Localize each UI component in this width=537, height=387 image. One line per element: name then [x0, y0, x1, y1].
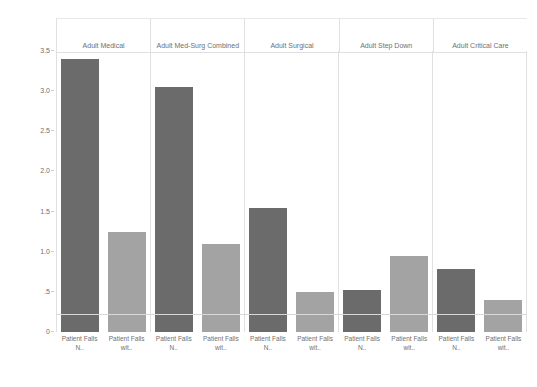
x-axis-baseline [56, 314, 527, 315]
bar[interactable] [437, 269, 475, 332]
y-tick-label: 2.5 [40, 127, 50, 135]
x-label-group-5: Patient Falls N..Patient Falls wit.. [433, 334, 527, 364]
x-tick-label: Patient Falls N.. [58, 334, 102, 364]
bar[interactable] [202, 244, 240, 332]
x-label-group-1: Patient Falls N..Patient Falls wit.. [56, 334, 150, 364]
y-axis-title: Rate of Patient Falls (per 1,000 patient… [6, 0, 22, 50]
bar[interactable] [390, 256, 428, 332]
panel-5 [432, 51, 527, 332]
y-tick-mark [51, 170, 54, 171]
y-tick-mark [51, 291, 54, 292]
x-tick-label: Patient Falls wit.. [293, 334, 337, 364]
panel-header-label: Adult Medical [83, 41, 125, 50]
bar[interactable] [108, 232, 146, 332]
x-label-group-2: Patient Falls N..Patient Falls wit.. [150, 334, 244, 364]
panel-header-4: Adult Step Down [339, 19, 433, 52]
x-axis-labels: Patient Falls N..Patient Falls wit..Pati… [56, 334, 527, 364]
panel-header-5: Adult Critical Care [433, 19, 527, 52]
x-tick-label: Patient Falls N.. [434, 334, 478, 364]
panel-header-1: Adult Medical [56, 19, 150, 52]
panel-header-label: Adult Med-Surg Combined [157, 41, 240, 50]
y-tick-label: 2.0 [40, 167, 50, 175]
y-tick-mark [51, 50, 54, 51]
bar-chart: Rate of Patient Falls (per 1,000 patient… [0, 0, 537, 387]
y-tick-label: 1.0 [40, 248, 50, 256]
panel-header-label: Adult Critical Care [452, 41, 508, 50]
y-tick-mark [51, 90, 54, 91]
x-tick-label: Patient Falls wit.. [387, 334, 431, 364]
y-tick-label: .5 [44, 288, 50, 296]
panel-2 [150, 51, 244, 332]
panel-header-3: Adult Surgical [244, 19, 338, 52]
panel-3 [244, 51, 338, 332]
x-tick-label: Patient Falls N.. [152, 334, 196, 364]
x-label-group-3: Patient Falls N..Patient Falls wit.. [244, 334, 338, 364]
plot-area: Adult MedicalAdult Med-Surg CombinedAdul… [56, 18, 527, 332]
panel-header-2: Adult Med-Surg Combined [150, 19, 244, 52]
y-tick-label: 1.5 [40, 208, 50, 216]
bar[interactable] [343, 290, 381, 332]
y-tick-mark [51, 130, 54, 131]
panel-header-label: Adult Surgical [270, 41, 313, 50]
panel-columns [56, 51, 527, 332]
y-tick-mark [51, 331, 54, 332]
y-tick-label: 3.0 [40, 87, 50, 95]
bar[interactable] [484, 300, 522, 332]
panel-1 [56, 51, 150, 332]
y-tick-mark [51, 211, 54, 212]
x-tick-label: Patient Falls wit.. [481, 334, 525, 364]
bar[interactable] [296, 292, 334, 332]
y-tick-label: 3.5 [40, 47, 50, 55]
panel-headers: Adult MedicalAdult Med-Surg CombinedAdul… [56, 18, 527, 53]
x-tick-label: Patient Falls wit.. [105, 334, 149, 364]
panel-header-label: Adult Step Down [360, 41, 412, 50]
y-tick-label: 0 [46, 328, 50, 336]
bar[interactable] [155, 87, 193, 332]
bar[interactable] [61, 59, 99, 332]
x-tick-label: Patient Falls N.. [340, 334, 384, 364]
x-tick-label: Patient Falls wit.. [199, 334, 243, 364]
x-label-group-4: Patient Falls N..Patient Falls wit.. [339, 334, 433, 364]
y-tick-mark [51, 251, 54, 252]
x-tick-label: Patient Falls N.. [246, 334, 290, 364]
panel-4 [338, 51, 432, 332]
y-axis-ticks: 3.53.02.52.01.51.0.50 [24, 18, 54, 332]
